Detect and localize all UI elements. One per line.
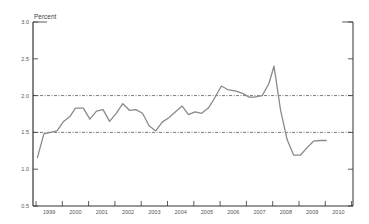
y-tick-label: 2.0 (21, 93, 29, 99)
y-axis-unit-label: Percent (34, 13, 57, 20)
y-tick-label: 1.0 (21, 166, 29, 172)
x-tick-label: 2002 (122, 209, 134, 215)
x-tick-label: 1999 (43, 209, 55, 215)
chart-frame (33, 22, 353, 206)
y-tick-label: 3.0 (21, 19, 29, 25)
x-tick-label: 2005 (201, 209, 213, 215)
x-tick-label: 2007 (253, 209, 265, 215)
x-tick-label: 2010 (332, 209, 344, 215)
x-tick-label: 2009 (306, 209, 318, 215)
x-axis-ticks: 1999200020012002200320042005200620072008… (36, 201, 352, 215)
y-tick-label: 2.5 (21, 56, 29, 62)
y-tick-label: 1.5 (21, 129, 29, 135)
y-tick-label: 0.5 (21, 203, 29, 209)
x-tick-label: 2003 (148, 209, 160, 215)
x-tick-label: 2008 (280, 209, 292, 215)
x-tick-label: 2006 (227, 209, 239, 215)
line-chart: 0.51.01.52.02.53.0 199920002001200220032… (0, 0, 369, 224)
data-series (37, 66, 326, 158)
x-tick-label: 2004 (175, 209, 187, 215)
x-tick-label: 2000 (69, 209, 81, 215)
reference-lines (33, 96, 353, 133)
x-tick-label: 2001 (96, 209, 108, 215)
series-line (37, 66, 326, 158)
